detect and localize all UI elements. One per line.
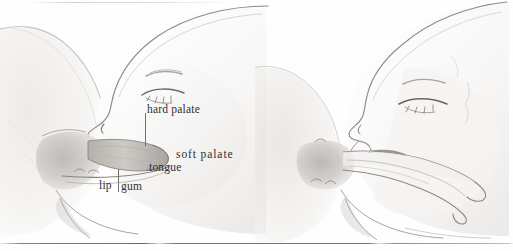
- label-lip: lip: [99, 179, 112, 191]
- panel-left-drawing: [0, 0, 270, 251]
- label-tongue: tongue: [149, 161, 182, 173]
- label-hard-palate: hard palate: [147, 103, 200, 115]
- label-soft-palate: soft palate: [176, 148, 233, 160]
- panel-right-drawing: [255, 0, 513, 251]
- top-rule: [28, 2, 238, 3]
- label-gum: gum: [121, 180, 142, 192]
- leader-line-lip-gum: [118, 169, 119, 192]
- illustration-page: hard palate soft palate tongue lip gum: [0, 0, 513, 251]
- bottom-rule: [0, 243, 513, 244]
- leader-line-hard-palate: [145, 113, 146, 146]
